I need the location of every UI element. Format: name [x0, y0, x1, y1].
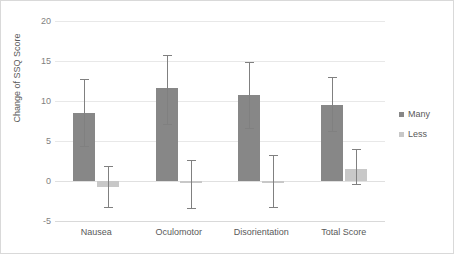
y-tick-label: 20: [5, 17, 51, 26]
error-bar-cap-upper: [80, 79, 89, 80]
error-bar-cap-lower: [352, 184, 361, 185]
y-tick-label: 15: [5, 57, 51, 66]
x-tick-label: Disorientation: [234, 227, 289, 237]
x-axis-line: [55, 221, 385, 222]
error-bar-stem: [273, 155, 274, 206]
error-bar-cap-lower: [245, 128, 254, 129]
x-tick-label: Nausea: [81, 227, 112, 237]
bar-group: [220, 21, 303, 221]
error-bar-stem: [191, 160, 192, 208]
legend-item[interactable]: Less: [399, 129, 430, 139]
error-bar-cap-upper: [269, 155, 278, 156]
legend-label: Less: [408, 129, 427, 139]
error-bar-cap-upper: [104, 166, 113, 167]
error-bar-cap-upper: [163, 55, 172, 56]
bar-group: [138, 21, 221, 221]
error-bar-cap-upper: [352, 149, 361, 150]
x-tick-label: Oculomotor: [155, 227, 202, 237]
ssq-change-bar-chart: Change of SSQ Score 20151050-5 NauseaOcu…: [0, 0, 454, 254]
plot-area: [55, 21, 385, 221]
error-bar-cap-upper: [245, 62, 254, 63]
legend-label: Many: [408, 109, 430, 119]
legend-swatch-icon: [399, 132, 404, 137]
y-tick-label: 5: [5, 137, 51, 146]
bar-group: [303, 21, 386, 221]
x-tick-label: Total Score: [321, 227, 366, 237]
error-bar-stem: [167, 55, 168, 125]
legend-item[interactable]: Many: [399, 109, 430, 119]
error-bar-cap-upper: [187, 160, 196, 161]
error-bar-stem: [84, 79, 85, 146]
bar-group: [55, 21, 138, 221]
error-bar-cap-lower: [187, 208, 196, 209]
y-tick-label: 0: [5, 177, 51, 186]
y-tick-label: -5: [5, 217, 51, 226]
legend-swatch-icon: [399, 112, 404, 117]
error-bar-stem: [332, 77, 333, 131]
error-bar-stem: [249, 62, 250, 128]
error-bar-cap-lower: [328, 131, 337, 132]
error-bar-stem: [108, 166, 109, 208]
error-bar-cap-upper: [328, 77, 337, 78]
y-tick-label: 10: [5, 97, 51, 106]
error-bar-cap-lower: [163, 124, 172, 125]
error-bar-cap-lower: [104, 207, 113, 208]
chart-legend: ManyLess: [399, 109, 430, 149]
y-axis-tick-labels: 20151050-5: [1, 21, 51, 221]
error-bar-cap-lower: [269, 207, 278, 208]
error-bar-cap-lower: [80, 146, 89, 147]
error-bar-stem: [356, 149, 357, 184]
